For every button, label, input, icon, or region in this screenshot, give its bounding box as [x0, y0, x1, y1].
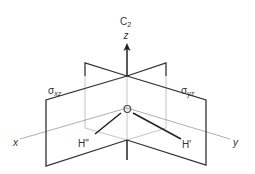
oxygen-atom-label: O [123, 103, 132, 115]
back-plane-bottom-left-hidden-edge [85, 128, 127, 140]
sigma-yz-label: σyz [181, 85, 195, 98]
c2-label: C2 [120, 16, 131, 28]
diagram-canvas: C2 z σxz σyz O H" H' x y [0, 0, 255, 174]
y-axis-line [127, 108, 230, 139]
plane-xz-back-edge [127, 63, 166, 76]
plane-yz-back-edge [85, 63, 127, 76]
y-axis-label: y [232, 137, 239, 148]
x-axis-label: x [12, 137, 19, 148]
symmetry-diagram: C2 z σxz σyz O H" H' x y [0, 0, 255, 174]
back-plane-bottom-right-hidden-edge [127, 128, 166, 140]
bonds [95, 113, 181, 139]
z-axis-label: z [123, 30, 129, 41]
sigma-xz-label: σxz [48, 85, 62, 97]
hydrogen-right-label: H' [182, 139, 191, 150]
x-axis-line [20, 108, 127, 139]
hydrogen-left-label: H" [78, 138, 89, 149]
